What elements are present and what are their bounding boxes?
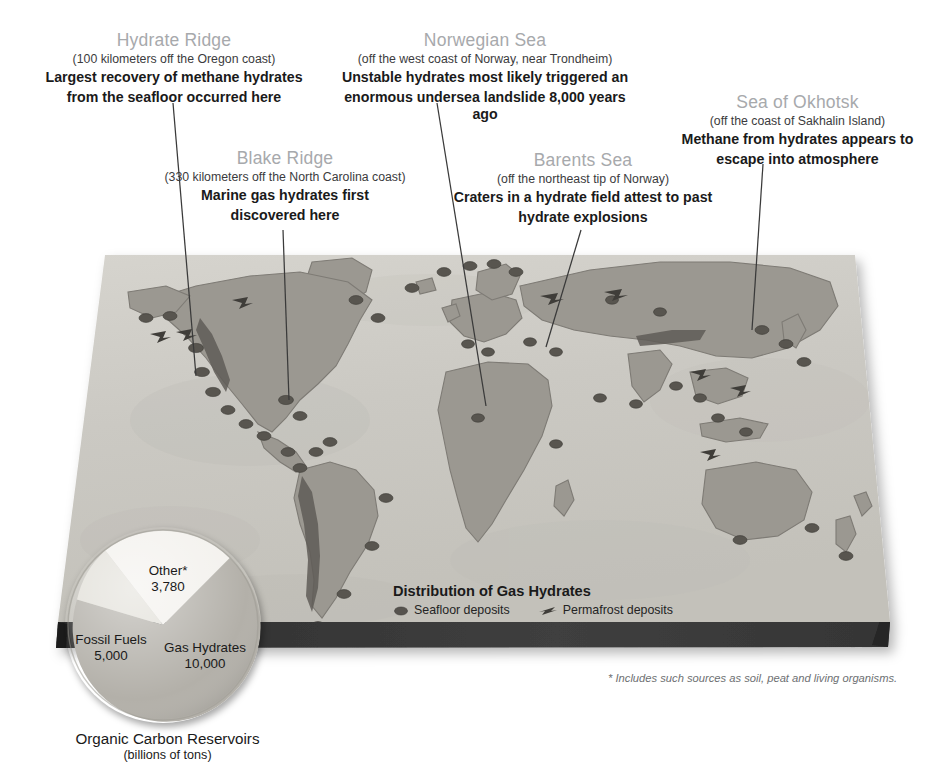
pie-label-gas-hydrates-name: Gas Hydrates <box>155 640 255 656</box>
callout-body-line1: Craters in a hydrate field attest to pas… <box>452 189 714 206</box>
callout-body-line1: Largest recovery of methane hydrates <box>14 69 334 86</box>
callout-body-line2: from the seafloor occurred here <box>14 89 334 106</box>
callout-norwegian-sea: Norwegian Sea (off the west coast of Nor… <box>330 30 640 123</box>
callout-body-line2: escape into atmosphere <box>655 151 940 168</box>
pie-slices <box>65 527 261 723</box>
organic-carbon-pie-chart: Other* 3,780 Fossil Fuels 5,000 Gas Hydr… <box>60 527 280 770</box>
callout-subtitle: (off the coast of Sakhalin Island) <box>655 114 940 129</box>
infographic-canvas: Hydrate Ridge (100 kilometers off the Or… <box>0 0 947 770</box>
legend-item-permafrost: Permafrost deposits <box>538 603 673 617</box>
callout-title: Blake Ridge <box>155 148 415 169</box>
footnote: * Includes such sources as soil, peat an… <box>608 672 897 684</box>
pie-label-other-name: Other* <box>122 563 214 579</box>
callout-body-line1: Marine gas hydrates first <box>155 187 415 204</box>
pie-caption-title: Organic Carbon Reservoirs <box>60 730 275 747</box>
callout-hydrate-ridge: Hydrate Ridge (100 kilometers off the Or… <box>14 30 334 106</box>
pie-graphic <box>65 527 261 723</box>
pie-label-fossil-fuels: Fossil Fuels 5,000 <box>65 632 157 663</box>
callout-body-line2: discovered here <box>155 207 415 224</box>
pie-label-other: Other* 3,780 <box>122 563 214 594</box>
callout-body-line1: Unstable hydrates most likely triggered … <box>330 69 640 86</box>
map-legend: Distribution of Gas Hydrates Seafloor de… <box>393 583 693 617</box>
pie-label-gas-hydrates: Gas Hydrates 10,000 <box>155 640 255 671</box>
legend-label-seafloor: Seafloor deposits <box>414 603 510 617</box>
legend-label-permafrost: Permafrost deposits <box>563 603 673 617</box>
callout-subtitle: (off the northeast tip of Norway) <box>452 172 714 187</box>
callout-title: Norwegian Sea <box>330 30 640 51</box>
callout-body-line2: hydrate explosions <box>452 209 714 226</box>
pie-label-fossil-fuels-name: Fossil Fuels <box>65 632 157 648</box>
callout-title: Sea of Okhotsk <box>655 92 940 113</box>
permafrost-deposit-icon <box>538 604 558 616</box>
callout-blake-ridge: Blake Ridge (330 kilometers off the Nort… <box>155 148 415 224</box>
pie-label-fossil-fuels-value: 5,000 <box>65 648 157 664</box>
callout-body-line1: Methane from hydrates appears to <box>655 131 940 148</box>
callout-body-line2: enormous undersea landslide 8,000 years … <box>330 89 640 124</box>
callout-title: Hydrate Ridge <box>14 30 334 51</box>
callout-subtitle: (off the west coast of Norway, near Tron… <box>330 52 640 67</box>
legend-item-seafloor: Seafloor deposits <box>393 603 510 617</box>
pie-label-gas-hydrates-value: 10,000 <box>155 656 255 672</box>
seafloor-deposit-icon <box>393 605 409 616</box>
callout-subtitle: (330 kilometers off the North Carolina c… <box>155 170 415 185</box>
pie-caption-units: (billions of tons) <box>60 748 275 762</box>
callout-sea-of-okhotsk: Sea of Okhotsk (off the coast of Sakhali… <box>655 92 940 168</box>
pie-label-other-value: 3,780 <box>122 579 214 595</box>
legend-rows: Seafloor deposits Permafrost deposits <box>393 603 693 617</box>
pie-caption: Organic Carbon Reservoirs (billions of t… <box>60 730 275 762</box>
callout-subtitle: (100 kilometers off the Oregon coast) <box>14 52 334 67</box>
legend-title: Distribution of Gas Hydrates <box>393 583 693 599</box>
